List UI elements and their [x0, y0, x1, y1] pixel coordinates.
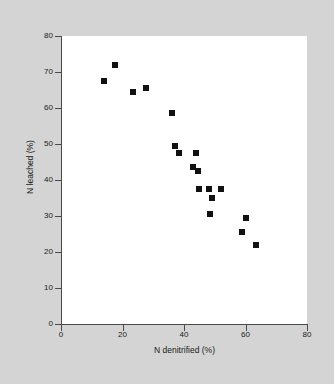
x-tick-label: 40: [172, 331, 196, 339]
data-point: [243, 215, 249, 221]
x-tick-label: 0: [49, 331, 73, 339]
data-point: [209, 195, 215, 201]
y-tick-label: 80: [31, 32, 53, 40]
y-tick-mark: [55, 144, 61, 145]
plot-frame: 01020304050607080 020406080 N leached (%…: [17, 14, 317, 357]
data-point: [169, 110, 175, 116]
data-point: [172, 143, 178, 149]
data-point: [112, 62, 118, 68]
data-point: [196, 186, 202, 192]
x-tick-label: 20: [111, 331, 135, 339]
data-point: [130, 89, 136, 95]
data-point: [253, 242, 259, 248]
data-point: [239, 229, 245, 235]
y-tick-mark: [55, 180, 61, 181]
y-axis-title: N leached (%): [25, 102, 35, 232]
data-point: [206, 186, 212, 192]
data-point: [218, 186, 224, 192]
y-tick-label: 70: [31, 68, 53, 76]
y-tick-mark: [55, 252, 61, 253]
y-tick-mark: [55, 216, 61, 217]
y-tick-mark: [55, 108, 61, 109]
x-tick-label: 80: [295, 331, 319, 339]
data-point: [176, 150, 182, 156]
y-tick-mark: [55, 72, 61, 73]
data-point: [101, 78, 107, 84]
y-tick-label: 0: [31, 320, 53, 328]
y-tick-label: 20: [31, 248, 53, 256]
x-tick-label: 60: [234, 331, 258, 339]
y-tick-mark: [55, 288, 61, 289]
data-point: [207, 211, 213, 217]
y-axis-line: [61, 36, 62, 325]
plot-canvas: [61, 36, 307, 324]
data-point: [143, 85, 149, 91]
plot-card: 01020304050607080 020406080 N leached (%…: [17, 14, 317, 357]
data-point: [193, 150, 199, 156]
data-point: [195, 168, 201, 174]
x-axis-title: N denitrified (%): [61, 345, 308, 355]
y-tick-mark: [55, 36, 61, 37]
figure-container: 01020304050607080 020406080 N leached (%…: [0, 0, 334, 384]
y-tick-label: 10: [31, 284, 53, 292]
